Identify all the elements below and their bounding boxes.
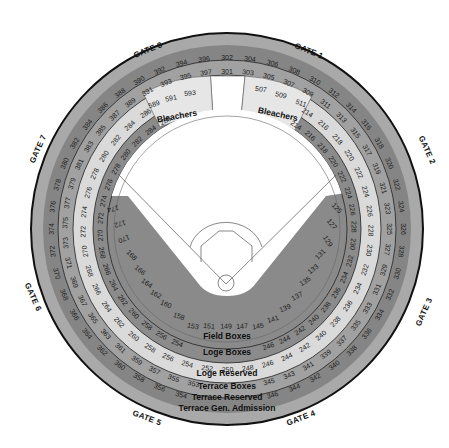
section-149[interactable]: 149 — [220, 322, 232, 329]
section-301[interactable]: 301 — [221, 68, 233, 75]
section-151[interactable]: 151 — [203, 322, 215, 330]
section-326[interactable]: 326 — [400, 223, 407, 235]
section-228[interactable]: 228 — [367, 225, 374, 237]
gate-3[interactable]: GATE 3 — [414, 296, 435, 327]
section-302[interactable]: 302 — [221, 54, 233, 61]
section-374[interactable]: 374 — [48, 223, 55, 235]
section-147[interactable]: 147 — [236, 322, 248, 330]
section-325[interactable]: 325 — [386, 223, 393, 235]
section-226[interactable]: 226 — [366, 205, 374, 218]
zone-label-terrace-boxes: Terrace Boxes — [198, 381, 256, 391]
section-593[interactable]: 593 — [184, 89, 196, 97]
zone-label-terrace-gen-admission: Terrace Gen. Admission — [179, 403, 276, 413]
zone-label-field-boxes: Field Boxes — [203, 331, 251, 341]
zone-label-loge-boxes: Loge Boxes — [203, 347, 251, 357]
stadium-seating-map: 3023043063083103123143163183203223243263… — [0, 0, 449, 448]
section-375[interactable]: 375 — [61, 217, 68, 229]
section-373[interactable]: 373 — [62, 237, 70, 249]
gate-2[interactable]: GATE 2 — [417, 134, 438, 165]
zone-label-loge-reserved: Loge Reserved — [197, 368, 258, 378]
zone-label-terrace-reserved: Terrace Reserved — [192, 392, 263, 402]
section-270[interactable]: 270 — [96, 229, 104, 241]
section-274[interactable]: 274 — [80, 206, 88, 219]
section-230[interactable]: 230 — [349, 238, 357, 251]
section-272[interactable]: 272 — [79, 226, 86, 238]
section-272[interactable]: 272 — [97, 212, 105, 224]
section-228[interactable]: 228 — [350, 221, 357, 233]
